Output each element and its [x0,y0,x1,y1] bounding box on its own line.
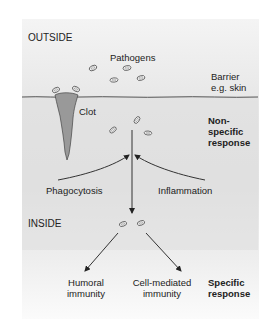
outside-label: OUTSIDE [28,32,72,43]
nonspecific-response-line1: Non- [208,115,230,126]
pathogens-label: Pathogens [110,52,155,63]
inflammation-label: Inflammation [158,185,212,196]
pathogen-icon [123,65,132,71]
pathogen-icon [144,131,152,136]
pathogen-icon [110,77,118,82]
pathogen-icon [137,75,146,82]
pathogen-icon [72,85,81,92]
specific-response-line2: response [208,288,250,299]
barrier-label-line2: e.g. skin [211,82,246,93]
nonspecific-response-line2: specific [208,126,243,137]
nonspecific-response-line3: response [208,137,250,148]
pathogen-icon [88,64,97,72]
cell-mediated-immunity-line1: Cell-mediated [127,277,197,288]
clot-label: Clot [79,106,96,117]
barrier-label-line1: Barrier [211,71,240,82]
phagocytosis-label: Phagocytosis [46,185,103,196]
inside-label: INSIDE [28,218,61,229]
pathogen-icon [52,86,61,93]
specific-response-line1: Specific [208,277,244,288]
humoral-immunity-line2: immunity [60,288,112,299]
cell-mediated-immunity-line2: immunity [127,288,197,299]
humoral-immunity-line1: Humoral [60,277,112,288]
